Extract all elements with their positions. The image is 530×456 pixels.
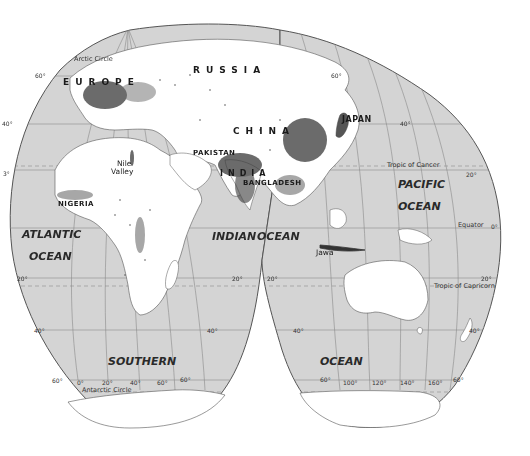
deg-lon-60: 60°: [157, 380, 168, 386]
deg-3-w: 3°: [3, 171, 10, 177]
deg-60-sw: 60°: [52, 378, 63, 384]
deg-60-sm2: 60°: [320, 377, 331, 383]
deg-lon-20: 20°: [102, 380, 113, 386]
deg-lon-160: 160°: [428, 380, 442, 386]
deg-20-ne: 20°: [466, 172, 477, 178]
label-nile-line2: Valley: [111, 168, 133, 176]
deg-40-sw: 40°: [34, 328, 45, 334]
label-pakistan: PAKISTAN: [193, 150, 235, 157]
label-southern: SOUTHERN: [108, 356, 176, 367]
deg-lon-100: 100°: [343, 380, 357, 386]
label-europe: EUROPE: [63, 78, 140, 87]
tasmania-land: [417, 327, 422, 334]
deg-40-sm2: 40°: [293, 328, 304, 334]
deg-lon-120: 120°: [372, 380, 386, 386]
label-tropic-cancer: Tropic of Cancer: [387, 162, 439, 169]
deg-60-ne: 60°: [331, 73, 342, 79]
label-bangladesh: BANGLADESH: [243, 180, 302, 187]
label-japan: JAPAN: [342, 116, 372, 124]
deg-40-e: 40°: [400, 121, 411, 127]
label-tropic-capricorn: Tropic of Capricorn: [434, 283, 495, 290]
borneo-land: [330, 209, 346, 229]
deg-lon-40: 40°: [130, 380, 141, 386]
label-atlantic: ATLANTIC: [22, 229, 81, 240]
deg-40-w: 40°: [2, 121, 13, 127]
deg-0-e: 0°: [491, 224, 498, 230]
label-equator: Equator: [458, 222, 484, 229]
deg-40-se: 40°: [469, 328, 480, 334]
deg-20-sw: 20°: [17, 276, 28, 282]
deg-60-sm: 60°: [180, 377, 191, 383]
label-pacific: PACIFIC: [398, 179, 445, 190]
antarctica-east: [300, 391, 440, 428]
deg-lon-140: 140°: [400, 380, 414, 386]
deg-20-se: 20°: [481, 276, 492, 282]
deg-20-sm: 20°: [232, 276, 243, 282]
deg-60-nw: 60°: [35, 73, 46, 79]
label-arctic-circle: Arctic Circle: [74, 56, 113, 63]
label-india: INDIA: [220, 170, 270, 178]
label-southern-ocean: OCEAN: [320, 356, 363, 367]
label-indian-ocean: OCEAN: [257, 231, 300, 242]
deg-lon-0: 0°: [77, 380, 84, 386]
label-china: CHINA: [233, 127, 295, 136]
label-antarctic-circle: Antarctic Circle: [82, 387, 131, 394]
deg-20-sm2: 20°: [267, 276, 278, 282]
label-jawa: Jawa: [316, 249, 334, 257]
deg-40-sm: 40°: [207, 328, 218, 334]
label-atlantic-ocean: OCEAN: [29, 251, 72, 262]
label-nigeria: NIGERIA: [58, 201, 94, 208]
label-russia: RUSSIA: [193, 66, 266, 75]
label-indian: INDIAN: [212, 231, 256, 242]
deg-60-se: 60°: [453, 377, 464, 383]
label-pacific-ocean: OCEAN: [398, 201, 441, 212]
